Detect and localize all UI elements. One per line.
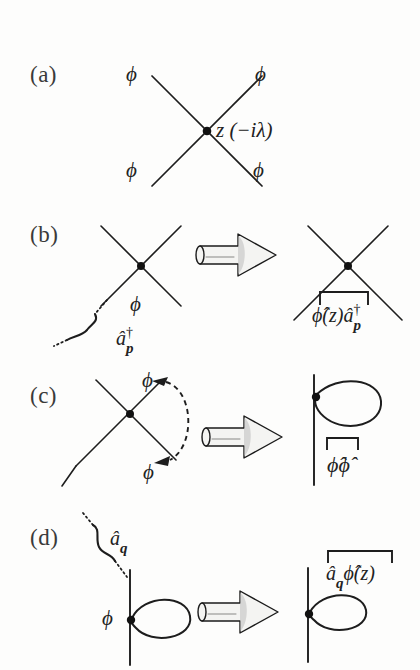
panel-c-leg-label-top: ϕ	[142, 368, 153, 393]
vertex-point-d-left	[127, 616, 135, 624]
panel-b-operator-a: â	[116, 327, 126, 349]
panel-b-right-operator-subscript: p	[353, 317, 361, 333]
contraction-bracket-d	[328, 551, 392, 562]
panel-b-field-operator: ϕ̂(z)	[312, 304, 343, 326]
feynman-diagram-figure: (a) ϕ ϕ ϕ ϕ z (−iλ) (b) ϕ â†p	[0, 0, 420, 670]
panel-a-label: (a)	[30, 62, 57, 88]
panel-b-label: (b)	[30, 222, 58, 248]
panel-a-leg-label-bottom-right: ϕ	[253, 158, 264, 183]
panel-b-creation-operator: â†p	[116, 325, 141, 354]
panel-c-right-diagram	[305, 375, 420, 505]
panel-b-contraction-expression: ϕ̂(z)â†p	[312, 302, 368, 331]
panel-d-right-operator-subscript: q	[336, 575, 344, 591]
panel-d-operator-a: â	[110, 527, 120, 549]
self-contraction-arc	[166, 382, 188, 460]
vertex-point-a	[203, 127, 212, 136]
panel-b-operator-subscript: p	[126, 340, 134, 356]
panel-b-right-diagram	[292, 218, 420, 358]
panel-d-right-diagram	[300, 540, 420, 670]
panel-b-implies-arrow	[194, 228, 290, 284]
vertex-point-c-right	[312, 393, 320, 401]
panel-d-right-operator-a: â	[326, 562, 336, 584]
contraction-bracket-c	[327, 438, 358, 449]
panel-c-contraction-expression: ϕ̂ϕ̂	[327, 452, 350, 478]
panel-d-label: (d)	[30, 525, 58, 551]
panel-d-operator-subscript: q	[120, 540, 128, 556]
tadpole-loop-c	[315, 381, 381, 426]
panel-b-right-operator-a: â	[343, 304, 353, 326]
panel-c-label: (c)	[30, 383, 57, 409]
panel-d-annihilation-operator: âq	[110, 527, 128, 554]
panel-c-implies-arrow	[200, 410, 296, 466]
panel-d-implies-arrow	[196, 585, 292, 641]
tadpole-loop-d-right	[309, 595, 366, 630]
panel-a-leg-label-top-right: ϕ	[255, 62, 266, 87]
panel-a-leg-label-top-left: ϕ	[126, 62, 137, 87]
arrowhead-top	[152, 377, 168, 386]
arrowhead-bottom	[154, 456, 170, 466]
vertex-point-b-left	[137, 262, 145, 270]
vertex-point-c-left	[126, 410, 134, 418]
tadpole-loop-d-left	[131, 600, 190, 638]
panel-b-operator-dagger: †	[126, 325, 133, 340]
panel-b-right-operator-dagger: †	[353, 302, 360, 317]
panel-a-leg-label-bottom-left: ϕ	[126, 158, 137, 183]
panel-d-contraction-expression: âqϕ̂(z)	[326, 562, 375, 589]
vertex-point-b-right	[344, 262, 352, 270]
panel-d-right-field-operator: ϕ̂(z)	[344, 562, 375, 584]
panel-b-leg-label: ϕ	[130, 292, 141, 317]
panel-a-vertex-label: z (−iλ)	[216, 118, 273, 143]
vertex-point-d-right	[305, 610, 313, 618]
panel-d-leg-label: ϕ	[102, 606, 113, 631]
panel-c-leg-label-bottom: ϕ	[143, 460, 154, 485]
